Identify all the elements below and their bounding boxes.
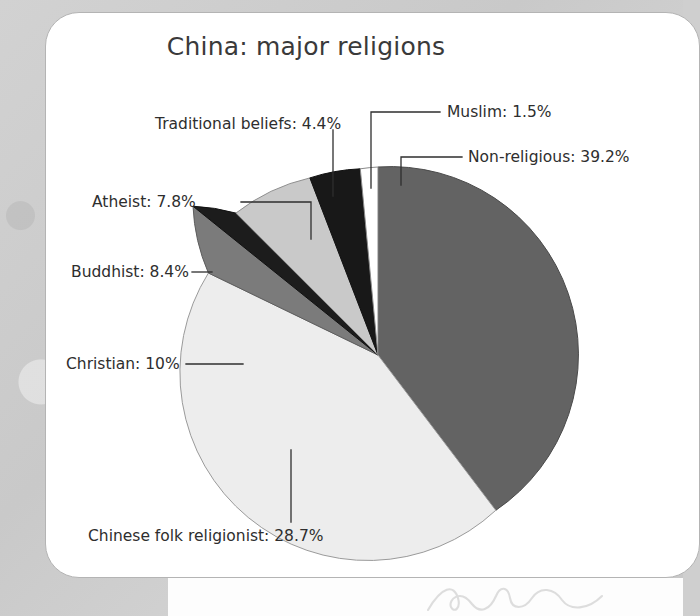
pie-label-muslim: Muslim: 1.5%: [447, 103, 552, 121]
pie-chart: [45, 12, 700, 578]
pie-label-non-religious: Non-religious: 39.2%: [468, 148, 630, 166]
pie-label-atheist: Atheist: 7.8%: [92, 193, 196, 211]
pie-label-christian: Christian: 10%: [66, 355, 180, 373]
pie-label-buddhist: Buddhist: 8.4%: [71, 263, 189, 281]
pie-label-chinese-folk-religionist: Chinese folk religionist: 28.7%: [88, 527, 323, 545]
pie-label-traditional-beliefs: Traditional beliefs: 4.4%: [155, 115, 341, 133]
handwriting-mark: [420, 580, 610, 616]
